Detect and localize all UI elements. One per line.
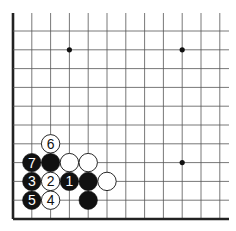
move-number-label: 7 — [28, 155, 36, 171]
black-stone — [79, 191, 97, 209]
white-stone — [79, 153, 97, 171]
stone-disc — [41, 153, 59, 171]
white-stone — [60, 153, 78, 171]
stone-disc — [79, 191, 97, 209]
white-stone: 2 — [41, 172, 59, 190]
black-stone — [79, 172, 97, 190]
stone-disc — [79, 153, 97, 171]
stone-disc — [79, 172, 97, 190]
black-stone: 7 — [23, 153, 41, 171]
black-stone: 3 — [23, 172, 41, 190]
move-number-label: 2 — [47, 173, 55, 189]
black-stone — [41, 153, 59, 171]
white-stone — [98, 172, 116, 190]
star-point-icon — [180, 160, 185, 165]
move-number-label: 5 — [28, 192, 36, 208]
star-point-icon — [67, 47, 72, 52]
move-number-label: 3 — [28, 173, 36, 189]
stone-disc — [98, 172, 116, 190]
stone-disc — [60, 153, 78, 171]
go-board: 6732154 — [0, 0, 236, 231]
black-stone: 5 — [23, 191, 41, 209]
black-stone: 1 — [60, 172, 78, 190]
move-number-label: 6 — [47, 136, 55, 152]
star-point-icon — [180, 47, 185, 52]
white-stone: 6 — [41, 135, 59, 153]
move-number-label: 1 — [66, 173, 74, 189]
white-stone: 4 — [41, 191, 59, 209]
move-number-label: 4 — [47, 192, 55, 208]
